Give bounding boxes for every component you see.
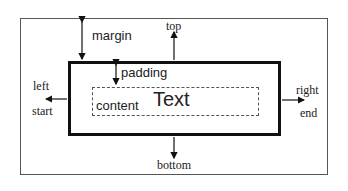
- start-label: start: [32, 104, 53, 119]
- padding-label: padding: [121, 65, 167, 80]
- content-label: content: [96, 98, 139, 113]
- end-label: end: [300, 106, 317, 121]
- margin-label: margin: [92, 28, 132, 43]
- bottom-label: bottom: [157, 158, 191, 173]
- left-label: left: [33, 79, 49, 94]
- text-sample: Text: [153, 88, 190, 111]
- right-label: right: [296, 83, 319, 98]
- top-label: top: [166, 19, 181, 34]
